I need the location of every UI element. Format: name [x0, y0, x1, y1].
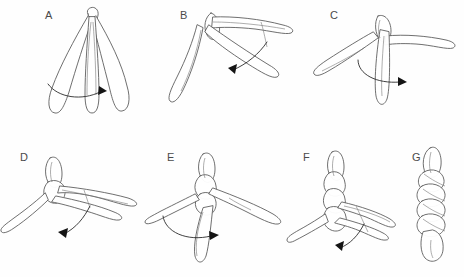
arrow-head-f	[335, 241, 344, 251]
panel-label-d: D	[20, 152, 28, 163]
arrow-head-c	[398, 77, 407, 86]
panel-label-g: G	[412, 152, 421, 163]
strand-left-c	[314, 32, 378, 75]
panel-c: C	[300, 0, 464, 140]
panel-a-drawing	[0, 0, 155, 140]
strand-left-d	[1, 193, 48, 233]
arrow-head-a	[98, 86, 107, 95]
panel-a: A	[0, 0, 155, 140]
panel-e: E	[145, 140, 290, 277]
panel-d: D	[0, 140, 145, 277]
panel-g: G	[400, 140, 464, 277]
figure-root: A B	[0, 0, 464, 277]
strand-left-b	[169, 25, 203, 102]
panel-label-b: B	[180, 10, 188, 21]
panel-b: B	[155, 0, 300, 140]
panel-label-e: E	[167, 152, 175, 163]
panel-b-drawing	[155, 0, 300, 140]
panel-c-drawing	[300, 0, 464, 140]
strand-left-f	[287, 214, 328, 242]
arrow-head-d	[58, 228, 68, 238]
strand-right-e	[209, 188, 281, 224]
strand-left-e	[145, 194, 199, 224]
panel-label-a: A	[45, 10, 53, 21]
panel-label-c: C	[330, 10, 338, 21]
arrow-head-b	[228, 64, 237, 74]
strand-right-lower-b	[205, 25, 279, 77]
strand-center-c	[375, 30, 389, 104]
strand-right-top-b	[212, 17, 293, 34]
panel-f: F	[290, 140, 400, 277]
arrow-head-e	[209, 231, 219, 240]
panel-g-drawing	[400, 140, 464, 277]
strand-right-c	[385, 35, 455, 48]
panel-label-f: F	[303, 152, 310, 163]
